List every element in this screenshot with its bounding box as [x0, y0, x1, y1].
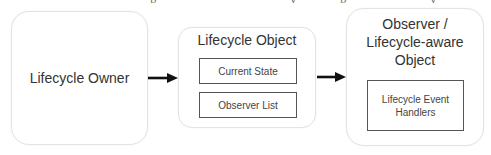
current-state-label: Current State	[218, 65, 277, 78]
handlers-label-line: Handlers	[382, 106, 449, 119]
lifecycle-object-node: Lifecycle Object Current State Observer …	[178, 27, 316, 128]
arrow-lifecycle-to-observer	[317, 72, 346, 82]
lifecycle-object-title: Lifecycle Object	[179, 32, 315, 48]
clipped-preceding-text: p y p y	[0, 0, 491, 3]
observer-list-label: Observer List	[218, 99, 277, 112]
handlers-label-line: Lifecycle Event	[382, 93, 449, 106]
arrow-owner-to-lifecycle	[148, 73, 178, 83]
observer-title-line: Lifecycle-aware	[347, 33, 483, 51]
observer-node: Observer / Lifecycle-aware Object Lifecy…	[346, 8, 484, 146]
lifecycle-event-handlers-node: Lifecycle Event Handlers	[367, 80, 464, 131]
lifecycle-owner-node: Lifecycle Owner	[11, 11, 148, 145]
arrow-right-icon	[317, 72, 346, 82]
observer-title: Observer / Lifecycle-aware Object	[347, 15, 483, 69]
lifecycle-owner-label: Lifecycle Owner	[30, 70, 130, 86]
observer-title-line: Observer /	[347, 15, 483, 33]
observer-list-node: Observer List	[199, 92, 297, 118]
observer-title-line: Object	[347, 51, 483, 69]
arrow-right-icon	[148, 73, 178, 83]
current-state-node: Current State	[199, 58, 297, 84]
